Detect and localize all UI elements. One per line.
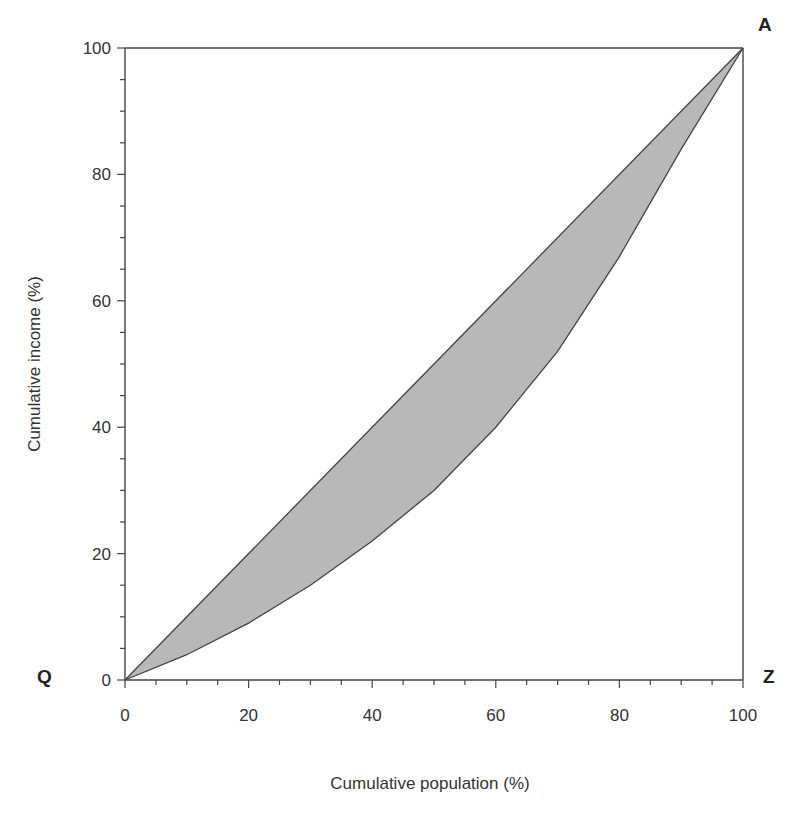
y-axis-title: Cumulative income (%): [25, 276, 44, 452]
y-tick-label: 0: [102, 671, 111, 690]
x-tick-label: 80: [610, 706, 629, 725]
x-tick-label: 60: [486, 706, 505, 725]
x-tick-label: 20: [239, 706, 258, 725]
y-tick-label: 40: [92, 418, 111, 437]
corner-label-a: A: [758, 14, 772, 35]
x-tick-label: 100: [729, 706, 757, 725]
y-tick-label: 80: [92, 165, 111, 184]
y-tick-label: 100: [83, 39, 111, 58]
y-tick-label: 20: [92, 545, 111, 564]
inequality-area: [125, 48, 743, 680]
corner-label-q: Q: [37, 666, 52, 687]
x-tick-label: 40: [363, 706, 382, 725]
x-axis-title: Cumulative population (%): [330, 774, 529, 793]
x-tick-label: 0: [120, 706, 129, 725]
corner-label-z: Z: [763, 666, 775, 687]
y-tick-label: 60: [92, 292, 111, 311]
lorenz-curve-chart: 020406080100020406080100 Cumulative popu…: [0, 0, 801, 820]
equality-line: [125, 48, 743, 680]
